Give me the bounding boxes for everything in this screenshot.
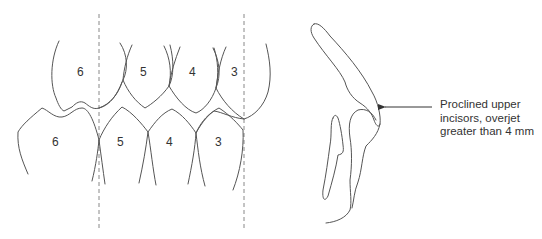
upper-tooth-label: 4	[189, 65, 196, 79]
upper-tooth-labels: 6 5 4 3	[77, 65, 238, 79]
upper-tooth-label: 5	[140, 65, 147, 79]
upper-tooth-4-mesial	[169, 47, 180, 86]
incisor-profile	[311, 24, 432, 223]
annotation-line: Proclined upper	[440, 98, 542, 112]
incisor-annotation: Proclined upper incisors, overjet greate…	[440, 98, 542, 139]
upper-tooth-3-outline	[213, 44, 270, 119]
upper-tooth-5-mesial	[123, 45, 132, 80]
lower-tooth-label: 6	[52, 135, 59, 149]
lower-tooth-label: 3	[215, 135, 222, 149]
upper-tooth-label: 3	[231, 65, 238, 79]
lower-tooth-3-outline	[188, 108, 243, 190]
upper-teeth	[52, 41, 270, 119]
lower-incisor-inner	[352, 124, 380, 208]
lower-tooth-label: 4	[166, 135, 173, 149]
lower-incisor-outline	[326, 109, 376, 223]
upper-occlusal-connector	[99, 80, 123, 108]
lower-tooth-5-distal	[99, 140, 105, 184]
upper-incisor-outline	[311, 24, 380, 126]
lower-tooth-label: 5	[117, 135, 124, 149]
annotation-line: greater than 4 mm	[440, 125, 542, 139]
upper-tooth-label: 6	[77, 65, 84, 79]
annotation-line: incisors, overjet	[440, 112, 542, 126]
lower-adjacent-tooth-outline	[323, 115, 344, 199]
dental-occlusion-diagram: 6 5 4 3 6 5 4 3 Proclined upper incisors…	[0, 0, 542, 239]
